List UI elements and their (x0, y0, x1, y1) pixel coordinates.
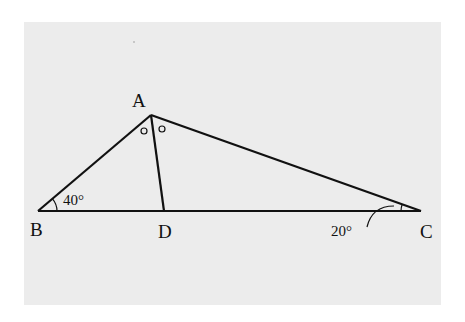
angle-c-pointer (367, 206, 394, 227)
triangle-diagram: A B C D 40° 20° (0, 0, 465, 322)
point-label-b: B (30, 219, 43, 240)
point-label-a: A (132, 90, 146, 111)
angle-label-b: 40° (63, 192, 84, 208)
segment-ac (151, 115, 421, 211)
segment-ad-bisector (151, 115, 164, 211)
angle-arc-b (53, 199, 58, 211)
speck (133, 41, 135, 43)
angle-mark-bad (141, 128, 147, 134)
angle-label-c: 20° (331, 223, 352, 239)
point-label-c: C (420, 221, 433, 242)
angle-mark-dac (159, 126, 165, 132)
segment-ab (38, 115, 151, 211)
point-label-d: D (158, 221, 172, 242)
